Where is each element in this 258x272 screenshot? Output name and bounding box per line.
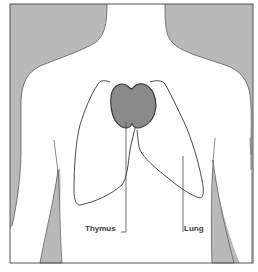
thymus-gland bbox=[111, 84, 156, 128]
anatomy-illustration bbox=[0, 0, 258, 272]
thymus-label: Thymus bbox=[85, 224, 116, 234]
lung-label: Lung bbox=[184, 224, 204, 234]
chest-anatomy-diagram: Thymus Lung bbox=[0, 0, 258, 272]
